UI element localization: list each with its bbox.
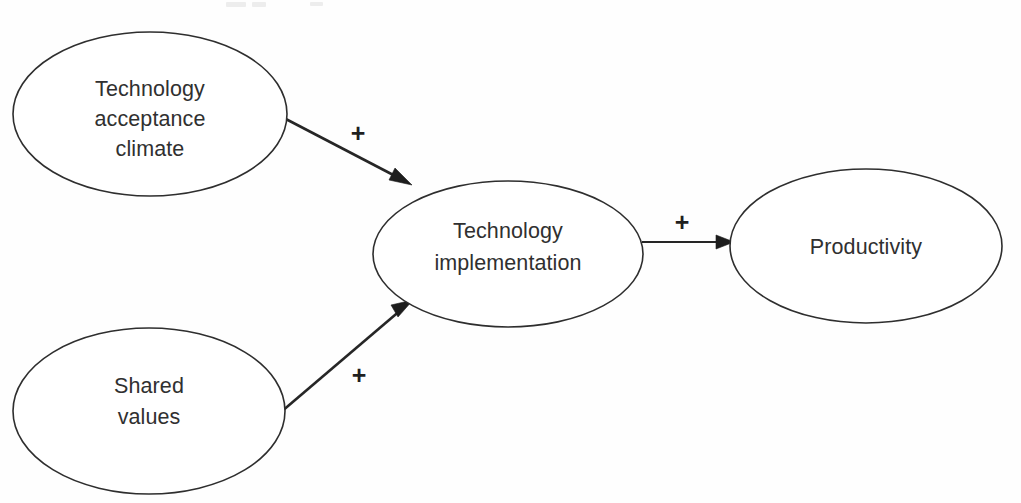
node-label-technology-acceptance-climate-line-3: climate [116,137,185,161]
edge-climate-to-implementation[interactable]: + [282,117,412,185]
conceptual-model-diagram: + + + Technology acceptance climate Shar… [0,0,1021,503]
arrowhead-icon [389,168,412,185]
node-label-shared-values-line-1: Shared [114,374,184,398]
node-shared-values[interactable]: Shared values [13,328,285,494]
node-technology-acceptance-climate[interactable]: Technology acceptance climate [13,32,287,196]
node-label-technology-implementation-line-1: Technology [453,219,563,243]
node-label-technology-acceptance-climate-line-1: Technology [95,77,205,101]
edge-shared-values-to-implementation[interactable]: + [281,300,413,412]
edge-line-shared-values-to-implementation [281,309,402,412]
edge-label-shared-values-to-implementation: + [352,361,367,389]
node-label-technology-implementation-line-2: implementation [434,251,581,275]
edge-label-implementation-to-productivity: + [675,208,690,236]
edge-label-climate-to-implementation: + [351,119,366,147]
diagram-canvas: + + + Technology acceptance climate Shar… [0,0,1021,503]
edge-implementation-to-productivity[interactable]: + [642,208,734,249]
node-productivity[interactable]: Productivity [730,169,1002,323]
node-label-shared-values-line-2: values [118,405,181,429]
node-technology-implementation[interactable]: Technology implementation [373,181,643,327]
node-label-productivity: Productivity [810,235,922,259]
edge-line-climate-to-implementation [282,117,401,179]
node-label-technology-acceptance-climate-line-2: acceptance [95,107,206,131]
